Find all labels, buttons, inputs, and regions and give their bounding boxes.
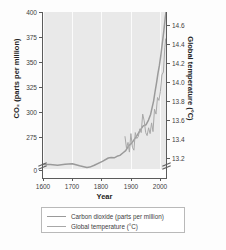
temperature-line bbox=[125, 39, 166, 152]
tick-label-x-1700: 1700 bbox=[57, 183, 87, 190]
series-layer bbox=[43, 12, 166, 169]
legend: Carbon dioxide (parts per million) Globa… bbox=[41, 207, 185, 233]
legend-item-temperature: Global temperature (°C) bbox=[47, 221, 179, 231]
tick-right-140 bbox=[167, 82, 170, 83]
tick-x-1600 bbox=[43, 178, 44, 181]
left-axis-break-icon bbox=[38, 162, 47, 171]
legend-item-co2: Carbon dioxide (parts per million) bbox=[47, 211, 179, 221]
tick-label-x-2000: 2000 bbox=[145, 183, 175, 190]
tick-left-375 bbox=[39, 37, 42, 38]
tick-label-right-146: 14.6 bbox=[172, 22, 185, 29]
tick-left-300 bbox=[39, 112, 42, 113]
tick-label-left-350: 350 bbox=[26, 59, 37, 66]
tick-right-132 bbox=[167, 158, 170, 159]
chart-figure: 400 375 350 325 300 275 0 14.6 14.4 14.2… bbox=[0, 0, 226, 250]
legend-label-temperature: Global temperature (°C) bbox=[71, 223, 138, 230]
tick-label-left-400: 400 bbox=[26, 9, 37, 16]
tick-left-275 bbox=[39, 137, 42, 138]
tick-left-325 bbox=[39, 87, 42, 88]
tick-label-right-142: 14.2 bbox=[172, 60, 185, 67]
tick-label-left-325: 325 bbox=[26, 84, 37, 91]
tick-right-134 bbox=[167, 139, 170, 140]
tick-label-right-138: 13.8 bbox=[172, 98, 185, 105]
line-swatch-co2-icon bbox=[47, 216, 66, 217]
tick-label-left-300: 300 bbox=[26, 109, 37, 116]
tick-left-350 bbox=[39, 62, 42, 63]
bottom-axis-spine bbox=[42, 178, 167, 179]
tick-left-400 bbox=[39, 12, 42, 13]
tick-right-142 bbox=[167, 63, 170, 64]
tick-right-138 bbox=[167, 101, 170, 102]
tick-right-146 bbox=[167, 25, 170, 26]
tick-x-1800 bbox=[101, 178, 102, 181]
tick-label-x-1800: 1800 bbox=[86, 183, 116, 190]
legend-label-co2: Carbon dioxide (parts per million) bbox=[71, 213, 164, 220]
tick-label-x-1900: 1900 bbox=[116, 183, 146, 190]
co2-line bbox=[43, 12, 166, 168]
right-axis-spine bbox=[166, 12, 167, 178]
tick-label-right-136: 13.6 bbox=[172, 117, 185, 124]
right-axis-title: Global temperature (°C) bbox=[186, 31, 195, 127]
tick-label-right-132: 13.2 bbox=[172, 155, 185, 162]
tick-label-right-144: 14.4 bbox=[172, 41, 185, 48]
left-axis-title: CO₂ (parts per million) bbox=[12, 31, 21, 127]
tick-x-1900 bbox=[131, 178, 132, 181]
tick-x-1700 bbox=[72, 178, 73, 181]
right-axis-break-icon bbox=[162, 162, 171, 171]
x-axis-title: Year bbox=[43, 192, 166, 201]
line-swatch-temperature-icon bbox=[47, 226, 66, 227]
tick-label-x-1600: 1600 bbox=[28, 183, 58, 190]
tick-label-right-134: 13.4 bbox=[172, 136, 185, 143]
left-axis-spine bbox=[42, 12, 43, 178]
tick-right-136 bbox=[167, 120, 170, 121]
tick-right-144 bbox=[167, 44, 170, 45]
tick-label-left-0: 0 bbox=[33, 167, 37, 174]
tick-x-2000 bbox=[160, 178, 161, 181]
tick-label-left-275: 275 bbox=[26, 134, 37, 141]
tick-label-left-375: 375 bbox=[26, 34, 37, 41]
tick-label-right-140: 14.0 bbox=[172, 79, 185, 86]
